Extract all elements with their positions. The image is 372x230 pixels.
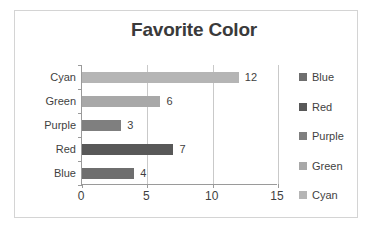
legend-label: Blue <box>312 71 334 83</box>
legend-item[interactable]: Purple <box>299 130 371 142</box>
legend-swatch-icon <box>299 162 307 170</box>
bar-series: 126374 <box>82 65 277 184</box>
legend-swatch-icon <box>299 191 307 199</box>
legend-label: Green <box>312 160 343 172</box>
legend-label: Cyan <box>312 189 338 201</box>
bar[interactable] <box>82 168 134 179</box>
category-label: Red <box>33 137 81 161</box>
bar-row: 7 <box>82 137 277 161</box>
legend-item[interactable]: Blue <box>299 71 371 83</box>
chart-legend: BlueRedPurpleGreenCyan <box>299 71 371 201</box>
value-axis-tick-label: 0 <box>78 189 85 203</box>
plot-area: 126374 <box>81 65 277 185</box>
value-axis-tick-label: 10 <box>205 189 218 203</box>
legend-swatch-icon <box>299 132 307 140</box>
value-axis-tick <box>278 184 279 188</box>
legend-swatch-icon <box>299 103 307 111</box>
gridline <box>278 65 279 184</box>
bar-row: 12 <box>82 65 277 89</box>
chart-title: Favorite Color <box>15 19 357 41</box>
plot-block: CyanGreenPurpleRedBlue 126374 051015 <box>33 65 281 205</box>
bar-value-label: 12 <box>245 71 257 83</box>
bar-row: 3 <box>82 113 277 137</box>
bar[interactable] <box>82 120 121 131</box>
legend-item[interactable]: Green <box>299 160 371 172</box>
legend-swatch-icon <box>299 73 307 81</box>
bar[interactable] <box>82 72 239 83</box>
value-axis-tick-label: 15 <box>270 189 283 203</box>
bar-row: 4 <box>82 161 277 185</box>
bar[interactable] <box>82 96 160 107</box>
bar-value-label: 4 <box>140 167 146 179</box>
bar[interactable] <box>82 144 173 155</box>
legend-label: Purple <box>312 130 344 142</box>
legend-label: Red <box>312 101 332 113</box>
chart-frame: Favorite Color CyanGreenPurpleRedBlue 12… <box>14 10 358 218</box>
category-label: Blue <box>33 161 81 185</box>
category-axis-labels: CyanGreenPurpleRedBlue <box>33 65 81 185</box>
bar-row: 6 <box>82 89 277 113</box>
category-label: Cyan <box>33 65 81 89</box>
legend-item[interactable]: Red <box>299 101 371 113</box>
bar-value-label: 3 <box>127 119 133 131</box>
value-axis-tick-label: 5 <box>143 189 150 203</box>
bar-value-label: 7 <box>179 143 185 155</box>
bar-value-label: 6 <box>166 95 172 107</box>
category-label: Purple <box>33 113 81 137</box>
category-label: Green <box>33 89 81 113</box>
legend-item[interactable]: Cyan <box>299 189 371 201</box>
value-axis-labels: 051015 <box>81 189 277 205</box>
